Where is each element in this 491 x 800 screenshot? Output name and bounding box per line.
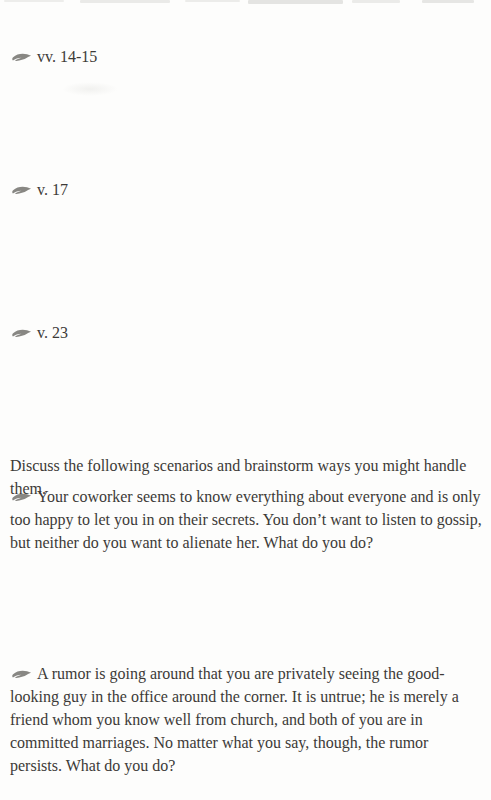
- swoosh-ornament-icon: [10, 52, 32, 63]
- scenario-paragraph: A rumor is going around that you are pri…: [10, 662, 482, 777]
- verse-prompt-label: vv. 14-15: [37, 48, 97, 65]
- scan-artifact-segment: [80, 0, 170, 3]
- swoosh-ornament-icon: [10, 185, 32, 196]
- verse-prompt-label: v. 23: [37, 324, 68, 341]
- book-page: vv. 14-15 v. 17 v. 23 Discuss the follow…: [0, 0, 491, 800]
- verse-prompt-row: v. 17: [10, 180, 68, 200]
- scan-artifact-segment: [422, 0, 474, 3]
- scan-artifact-segment: [185, 0, 240, 2]
- verse-prompt-row: vv. 14-15: [10, 47, 97, 67]
- scan-smudge: [62, 82, 118, 96]
- scenario-paragraph: Your coworker seems to know everything a…: [10, 485, 482, 554]
- scenario-text: A rumor is going around that you are pri…: [10, 665, 459, 774]
- swoosh-ornament-icon: [10, 492, 32, 503]
- verse-prompt-label: v. 17: [37, 181, 68, 198]
- scan-top-edge-artifact: [0, 0, 491, 5]
- swoosh-ornament-icon: [10, 328, 32, 339]
- scan-artifact-segment: [248, 0, 343, 4]
- scan-artifact-segment: [352, 0, 400, 3]
- verse-prompt-row: v. 23: [10, 323, 68, 343]
- swoosh-ornament-icon: [10, 669, 32, 680]
- scenario-text: Your coworker seems to know everything a…: [10, 488, 482, 551]
- scan-artifact-segment: [4, 0, 64, 2]
